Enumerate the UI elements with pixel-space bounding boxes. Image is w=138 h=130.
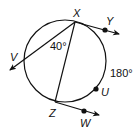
arc-label-180: 180° xyxy=(110,67,133,79)
point-w-dot xyxy=(81,108,86,113)
label-z: Z xyxy=(48,107,57,119)
point-y-dot xyxy=(102,27,107,32)
point-u-dot xyxy=(93,86,98,91)
label-w: W xyxy=(80,117,92,129)
label-y: Y xyxy=(106,15,114,27)
tangent-ray-zw xyxy=(55,102,99,115)
angle-label-40: 40° xyxy=(50,40,67,52)
label-x: X xyxy=(72,7,81,19)
circle-diagram: X Y V Z W U 40° 180° xyxy=(0,0,138,130)
label-v: V xyxy=(10,51,19,63)
label-u: U xyxy=(101,86,109,98)
